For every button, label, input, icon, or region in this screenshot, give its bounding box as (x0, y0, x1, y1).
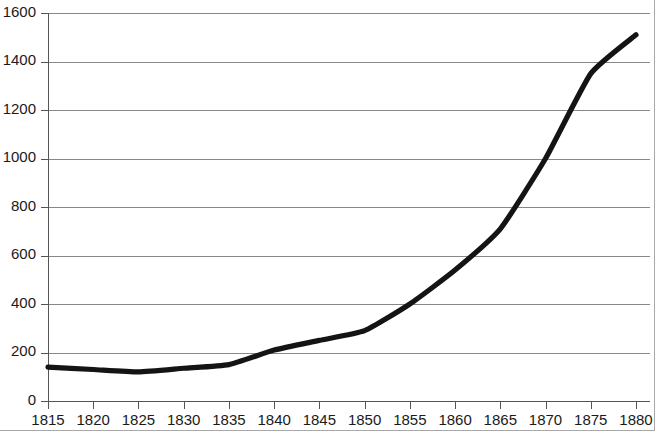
x-axis-tick-label: 1835 (212, 411, 245, 428)
x-axis-tick-label: 1850 (348, 411, 381, 428)
x-axis-labels: 1815182018251830183518401845185018551860… (31, 411, 652, 428)
x-axis-tick-label: 1870 (529, 411, 562, 428)
y-axis-tick-label: 400 (11, 294, 36, 311)
y-axis-tick-label: 1200 (3, 100, 36, 117)
x-axis-tick-label: 1830 (167, 411, 200, 428)
y-axis-tick-label: 1600 (3, 3, 36, 20)
tick-marks (41, 14, 637, 410)
series-line-series-1 (48, 35, 636, 372)
x-axis-tick-label: 1815 (31, 411, 64, 428)
x-axis-tick-label: 1825 (122, 411, 155, 428)
x-axis-tick-label: 1875 (574, 411, 607, 428)
y-axis-tick-label: 1400 (3, 51, 36, 68)
y-axis-tick-label: 600 (11, 245, 36, 262)
x-axis-tick-label: 1865 (484, 411, 517, 428)
x-axis-tick-label: 1820 (77, 411, 110, 428)
chart-plot-area: 02004006008001000120014001600 1815182018… (0, 0, 655, 431)
x-axis-tick-label: 1840 (257, 411, 290, 428)
data-series (48, 35, 636, 372)
x-axis-tick-label: 1860 (438, 411, 471, 428)
y-axis-labels: 02004006008001000120014001600 (3, 3, 36, 408)
x-axis-tick-label: 1880 (619, 411, 652, 428)
line-chart: 02004006008001000120014001600 1815182018… (0, 0, 655, 431)
x-axis-tick-label: 1845 (303, 411, 336, 428)
y-axis-tick-label: 0 (28, 391, 36, 408)
gridlines (48, 14, 650, 402)
y-axis-tick-label: 1000 (3, 148, 36, 165)
y-axis-tick-label: 200 (11, 342, 36, 359)
x-axis-tick-label: 1855 (393, 411, 426, 428)
y-axis-tick-label: 800 (11, 197, 36, 214)
